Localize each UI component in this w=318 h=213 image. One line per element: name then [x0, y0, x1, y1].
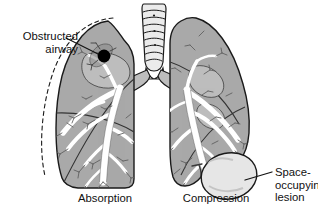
caption-absorption: Absorption [55, 192, 155, 205]
trachea-ring-dot [153, 14, 155, 16]
trachea-ring-dot [154, 44, 156, 46]
obstruction-blob [98, 50, 111, 63]
label-space-occupying-lesion: Space- occupying lesion [275, 166, 317, 204]
trachea [142, 4, 166, 71]
caption-compression: Compression [162, 192, 270, 205]
trachea-ring-dot [153, 30, 155, 32]
lung-collapse-illustration: Obstructed airway Space- occupying lesio… [0, 0, 318, 213]
label-obstructed-airway: Obstructed airway [2, 30, 78, 55]
